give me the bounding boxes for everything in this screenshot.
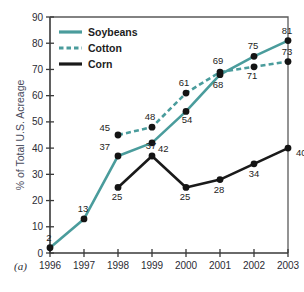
marker-cotton-2001 <box>217 69 224 76</box>
y-tick-label: 30 <box>32 169 44 180</box>
point-label-corn-2001: 28 <box>214 184 225 195</box>
marker-corn-2001 <box>217 176 224 183</box>
legend-label-cotton: Cotton <box>88 42 122 54</box>
y-tick-label: 0 <box>37 248 43 259</box>
x-tick-label: 2001 <box>209 260 232 271</box>
y-tick-label: 70 <box>32 64 44 75</box>
series-line-corn <box>118 148 288 187</box>
y-tick-label: 50 <box>32 116 44 127</box>
panel-label-text: (a) <box>14 260 27 273</box>
marker-corn-2002 <box>251 160 258 167</box>
y-tick-label: 60 <box>32 90 44 101</box>
y-tick-label: 20 <box>32 195 44 206</box>
x-tick-label: 1997 <box>73 260 96 271</box>
marker-cotton-2003 <box>285 58 292 65</box>
point-label-cotton-2003: 73 <box>282 46 293 57</box>
point-label-soybeans-1998: 37 <box>99 141 110 152</box>
point-label-soybeans-2003: 81 <box>282 25 293 36</box>
x-tick-label: 2003 <box>277 260 300 271</box>
y-tick-label: 80 <box>32 38 44 49</box>
point-label-soybeans-2002: 75 <box>248 40 259 51</box>
marker-corn-1999 <box>149 153 156 160</box>
point-label-soybeans-1996: 2 <box>46 232 51 243</box>
marker-soybeans-2003 <box>285 37 292 44</box>
x-tick-label: 1999 <box>141 260 164 271</box>
point-label-cotton-2000: 61 <box>179 77 190 88</box>
point-label-corn-2000: 25 <box>180 191 191 202</box>
marker-cotton-1998 <box>115 132 122 139</box>
panel-label: (a) <box>14 260 27 273</box>
legend-label-corn: Corn <box>88 58 113 70</box>
marker-corn-2000 <box>183 184 190 191</box>
x-tick-label: 1996 <box>39 260 62 271</box>
point-label-cotton-1998: 45 <box>99 122 110 133</box>
point-label-soybeans-1999: 42 <box>158 143 169 154</box>
series-line-cotton <box>118 62 288 135</box>
y-axis-title-text: % of Total U.S. Acreage <box>14 79 26 190</box>
marker-soybeans-1996 <box>47 244 54 251</box>
point-label-corn-2002: 34 <box>249 168 260 179</box>
point-label-corn-1998: 25 <box>112 191 123 202</box>
marker-soybeans-2002 <box>251 53 258 60</box>
chart-figure: 0102030405060708090 19961997199819992000… <box>0 0 304 292</box>
point-label-cotton-2002: 71 <box>247 70 258 81</box>
point-label-cotton-2001: 69 <box>213 55 224 66</box>
legend-label-soybeans: Soybeans <box>88 26 138 38</box>
x-tick-label: 1998 <box>107 260 130 271</box>
point-label-cotton-1999: 48 <box>145 111 156 122</box>
x-tick-label: 2002 <box>243 260 266 271</box>
marker-corn-1998 <box>115 184 122 191</box>
point-label-soybeans-2001: 68 <box>213 79 224 90</box>
y-tick-label: 90 <box>32 12 44 23</box>
y-axis-title: % of Total U.S. Acreage <box>14 79 26 190</box>
marker-soybeans-1997 <box>81 216 88 223</box>
marker-soybeans-1998 <box>115 153 122 160</box>
data-point-labels: 213374254687581454861697173253725283440 <box>46 25 304 243</box>
point-label-corn-1999: 37 <box>146 140 157 151</box>
y-tick-label: 10 <box>32 221 44 232</box>
line-chart: 0102030405060708090 19961997199819992000… <box>0 0 304 292</box>
point-label-soybeans-1997: 13 <box>78 203 89 214</box>
x-tick-label: 2000 <box>175 260 198 271</box>
marker-cotton-2000 <box>183 90 190 97</box>
marker-corn-2003 <box>285 145 292 152</box>
point-label-corn-2003: 40 <box>296 147 304 158</box>
chart-legend: SoybeansCottonCorn <box>59 26 138 70</box>
marker-cotton-1999 <box>149 124 156 131</box>
y-tick-label: 40 <box>32 143 44 154</box>
point-label-soybeans-2000: 54 <box>182 114 193 125</box>
